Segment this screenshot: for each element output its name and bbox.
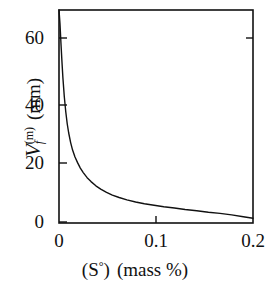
chart-figure: 60 40 20 0 0 0.1 0.2 (S°)(mass %) Vf(m)(… — [0, 0, 270, 292]
y-axis-label-symbol: V — [21, 144, 45, 157]
x-axis-label-close: ) — [104, 259, 110, 280]
y-axis-label: Vf(m)(mm) — [21, 22, 48, 212]
y-tick-label-0: 0 — [0, 212, 44, 231]
x-tick-label-0.2: 0.2 — [228, 231, 270, 250]
y-axis-label-unit: (mm) — [23, 78, 44, 120]
x-axis-label-species: (S — [82, 259, 99, 280]
x-axis-label: (S°)(mass %) — [0, 259, 270, 281]
plot-frame — [59, 10, 253, 223]
x-tick-label-0: 0 — [39, 231, 79, 250]
x-tick-label-0.1: 0.1 — [131, 231, 181, 250]
x-axis-label-unit: (mass %) — [117, 259, 188, 280]
y-axis-label-superscript: (m) — [22, 127, 36, 144]
